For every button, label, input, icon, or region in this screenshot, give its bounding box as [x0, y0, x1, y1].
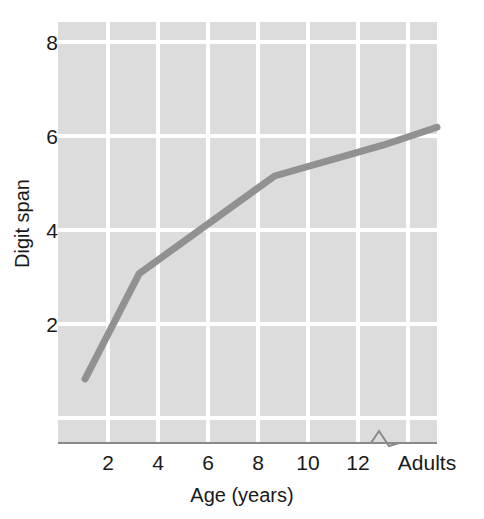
- y-axis-label: Digit span: [11, 154, 34, 294]
- axis-break-icon: [357, 426, 417, 452]
- x-axis-label: Age (years): [0, 484, 484, 507]
- y-tick-label-8: 8: [24, 32, 58, 53]
- y-tick-label-6: 6: [24, 126, 58, 147]
- x-tick-label-adults: Adults: [382, 452, 472, 473]
- y-tick-label-2: 2: [24, 314, 58, 335]
- digit-span-line-path: [85, 127, 437, 378]
- digit-span-line-chart: 8 6 4 2 2 4 6 8 10 12 Adults Digit span …: [0, 0, 484, 519]
- data-series-line: [58, 22, 437, 443]
- plot-area: [58, 22, 437, 443]
